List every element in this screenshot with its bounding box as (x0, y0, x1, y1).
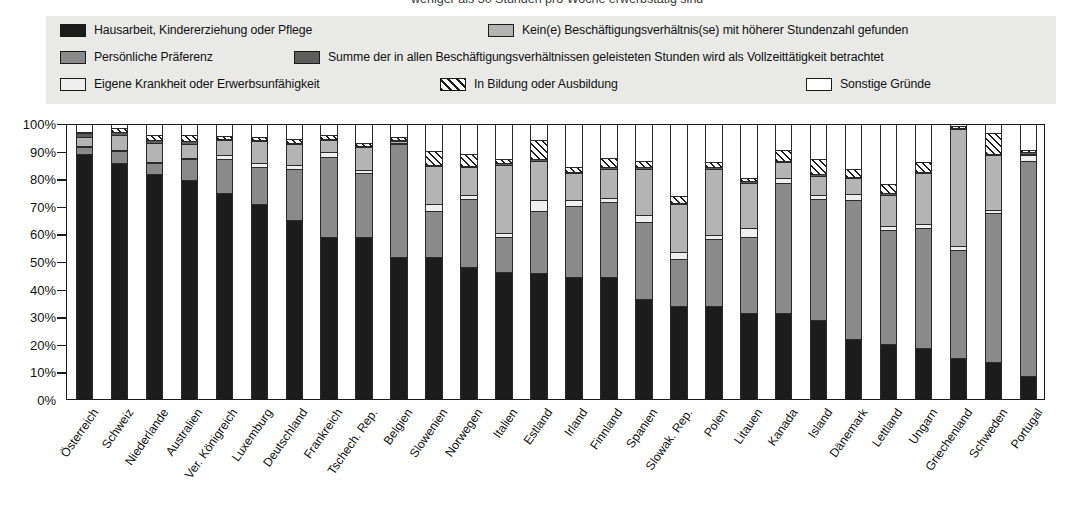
bar-slowak-rep[interactable] (670, 125, 687, 399)
bar-segment-edu (986, 133, 1001, 154)
bar-segment-pref (287, 169, 302, 220)
bar-segment-other (217, 125, 232, 136)
bar-schweden[interactable] (985, 125, 1002, 399)
bar-segment-house (287, 220, 302, 399)
bar-norwegen[interactable] (460, 125, 477, 399)
bar-segment-pref (671, 259, 686, 306)
bar-segment-edu (182, 135, 197, 142)
y-tick-mark (57, 317, 66, 318)
bar-segment-other (461, 125, 476, 154)
bar-segment-other (776, 125, 791, 150)
bar-segment-house (496, 272, 511, 399)
bar-segment-house (391, 257, 406, 399)
cutoff-caption-text: weniger als 30 Stunden pro Woche erwerbs… (411, 0, 703, 6)
bar-segment-edu (846, 169, 861, 177)
bar-segment-house (601, 277, 616, 399)
bar-segment-house (566, 277, 581, 399)
bar-segment-other (566, 125, 581, 167)
bar-spanien[interactable] (635, 125, 652, 399)
bar-lettland[interactable] (880, 125, 897, 399)
bar-deutschland[interactable] (286, 125, 303, 399)
bar-luxemburg[interactable] (251, 125, 268, 399)
bar-segment-nohigher (496, 165, 511, 234)
bar-segment-edu (916, 162, 931, 172)
bar-schweiz[interactable] (111, 125, 128, 399)
bar-segment-nohigher (356, 147, 371, 170)
legend-label-house: Hausarbeit, Kindererziehung oder Pflege (94, 23, 312, 37)
bar-segment-house (881, 344, 896, 399)
y-tick-label: 20% (30, 337, 56, 352)
bar-d-nemark[interactable] (845, 125, 862, 399)
bar-segment-nohigher (217, 140, 232, 155)
bar-ver-k-nigreich[interactable] (216, 125, 233, 399)
bar-frankreich[interactable] (320, 125, 337, 399)
bar-italien[interactable] (495, 125, 512, 399)
bar-segment-edu (461, 154, 476, 166)
y-tick-mark (57, 262, 66, 263)
plot-area (66, 124, 1045, 400)
bar-segment-nohigher (671, 204, 686, 252)
legend-label-nohigher: Kein(e) Beschäftigungsverhältnis(se) mit… (522, 23, 908, 37)
legend-item-nohigher: Kein(e) Beschäftigungsverhältnis(se) mit… (488, 20, 908, 40)
bar-estland[interactable] (530, 125, 547, 399)
bar-belgien[interactable] (390, 125, 407, 399)
bar-tschech-rep[interactable] (355, 125, 372, 399)
bar-segment-house (741, 313, 756, 399)
bar-segment-nohigher (601, 169, 616, 198)
bar-polen[interactable] (705, 125, 722, 399)
bar-griechenland[interactable] (950, 125, 967, 399)
bar-segment-other (881, 125, 896, 184)
bar-segment-other (916, 125, 931, 162)
bar-segment-edu (601, 158, 616, 168)
bar-segment-house (811, 320, 826, 399)
bar-slowenien[interactable] (425, 125, 442, 399)
bar-segment-ill (426, 204, 441, 211)
legend-swatch-edu-icon (440, 78, 466, 91)
legend-item-edu: In Bildung oder Ausbildung (440, 74, 618, 94)
x-tick-label: Irland (562, 406, 591, 439)
x-tick-label: Portugal (1008, 406, 1046, 451)
legend-swatch-other-icon (806, 78, 832, 91)
bar-australien[interactable] (181, 125, 198, 399)
bar-segment-nohigher (636, 169, 651, 216)
bar-litauen[interactable] (740, 125, 757, 399)
bar-segment-nohigher (321, 140, 336, 152)
bar-segment-pref (426, 211, 441, 256)
legend-label-edu: In Bildung oder Ausbildung (474, 77, 618, 91)
bar-island[interactable] (810, 125, 827, 399)
y-tick-label: 100% (23, 117, 56, 132)
x-tick-label: Island (805, 406, 835, 441)
y-tick-label: 10% (30, 365, 56, 380)
bar-segment-house (112, 163, 127, 399)
bar-segment-ill (636, 215, 651, 222)
bar-segment-ill (741, 228, 756, 238)
bar-segment-pref (951, 250, 966, 358)
bar-segment-nohigher (287, 144, 302, 165)
bar-niederlande[interactable] (146, 125, 163, 399)
y-tick-label: 70% (30, 199, 56, 214)
bar-segment-house (776, 313, 791, 399)
bar-ungarn[interactable] (915, 125, 932, 399)
bar-finnland[interactable] (600, 125, 617, 399)
x-tick-label: Italien (491, 406, 521, 441)
bar-segment-pref (217, 159, 232, 193)
bar-segment-house (252, 204, 267, 399)
bar-segment-pref (77, 147, 92, 154)
bar-segment-other (741, 125, 756, 178)
bar-segment-edu (636, 161, 651, 168)
bar-segment-pref (811, 199, 826, 320)
bar-portugal[interactable] (1020, 125, 1037, 399)
bar-segment-ill (531, 200, 546, 211)
bar-segment-pref (531, 211, 546, 273)
bar-sterreich[interactable] (76, 125, 93, 399)
bar-segment-other (1021, 125, 1036, 150)
y-tick-label: 40% (30, 282, 56, 297)
bar-irland[interactable] (565, 125, 582, 399)
bar-segment-nohigher (252, 141, 267, 163)
x-tick-label: Österreich (57, 406, 101, 460)
bar-segment-pref (776, 183, 791, 313)
legend-label-pref: Persönliche Präferenz (94, 50, 213, 64)
bar-kanada[interactable] (775, 125, 792, 399)
bar-segment-house (147, 174, 162, 399)
bar-segment-other (636, 125, 651, 161)
